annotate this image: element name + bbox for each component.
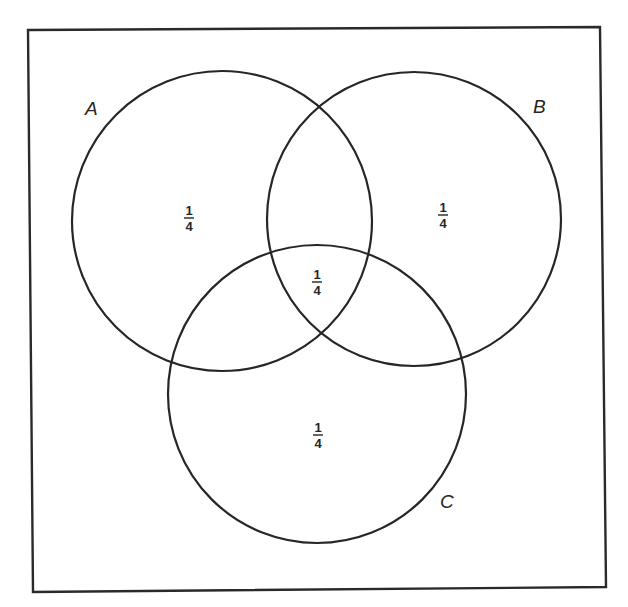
- set-a-circle: [72, 71, 372, 371]
- region-c-only-fraction: 1 4: [313, 420, 323, 451]
- fraction-denominator: 4: [313, 283, 321, 298]
- set-b-label: B: [533, 96, 546, 117]
- fraction-numerator: 1: [185, 203, 192, 218]
- fraction-denominator: 4: [439, 216, 447, 231]
- universe-rectangle: [28, 27, 606, 592]
- fraction-denominator: 4: [185, 219, 193, 234]
- fraction-numerator: 1: [314, 420, 321, 435]
- set-b-circle: [267, 72, 561, 366]
- fraction-numerator: 1: [313, 267, 320, 282]
- region-a-only-fraction: 1 4: [184, 203, 194, 234]
- venn-diagram: A B C 1 4 1 4 1 4 1 4: [0, 0, 628, 607]
- set-a-label: A: [84, 98, 98, 119]
- set-c-label: C: [440, 491, 454, 512]
- region-abc-intersection-fraction: 1 4: [312, 267, 322, 298]
- fraction-denominator: 4: [314, 436, 322, 451]
- region-b-only-fraction: 1 4: [438, 200, 448, 231]
- fraction-numerator: 1: [439, 200, 446, 215]
